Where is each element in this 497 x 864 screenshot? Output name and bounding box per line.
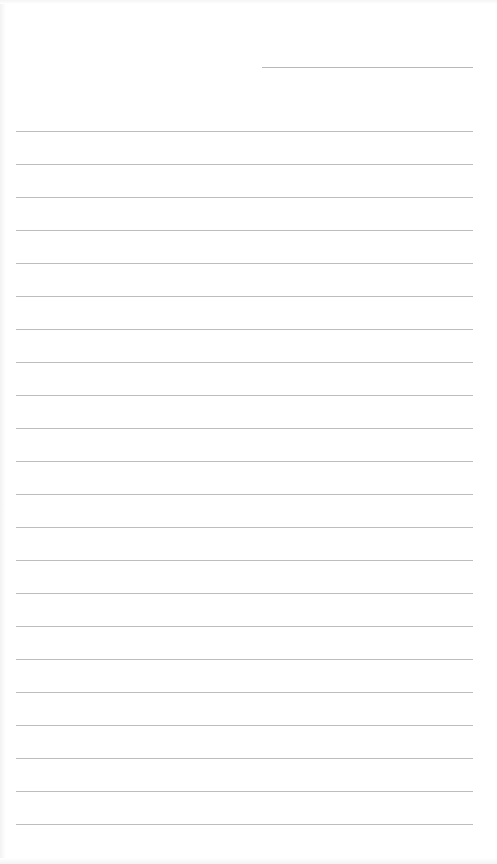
paper-top-edge bbox=[0, 0, 497, 4]
ruled-line bbox=[16, 659, 473, 660]
ruled-line bbox=[16, 527, 473, 528]
ruled-line bbox=[16, 560, 473, 561]
ruled-line bbox=[16, 263, 473, 264]
ruled-line bbox=[16, 824, 473, 825]
ruled-line bbox=[16, 296, 473, 297]
header-name-line bbox=[262, 67, 473, 68]
ruled-line bbox=[16, 230, 473, 231]
ruled-line bbox=[16, 593, 473, 594]
paper-left-edge bbox=[0, 0, 6, 864]
ruled-line bbox=[16, 131, 473, 132]
ruled-line bbox=[16, 725, 473, 726]
ruled-line bbox=[16, 626, 473, 627]
ruled-line bbox=[16, 329, 473, 330]
ruled-line bbox=[16, 791, 473, 792]
ruled-line bbox=[16, 164, 473, 165]
ruled-line bbox=[16, 197, 473, 198]
ruled-line bbox=[16, 428, 473, 429]
ruled-line bbox=[16, 461, 473, 462]
ruled-line bbox=[16, 758, 473, 759]
paper-bottom-edge bbox=[0, 858, 497, 864]
ruled-line bbox=[16, 692, 473, 693]
ruled-line bbox=[16, 395, 473, 396]
ruled-line bbox=[16, 362, 473, 363]
ruled-line bbox=[16, 494, 473, 495]
